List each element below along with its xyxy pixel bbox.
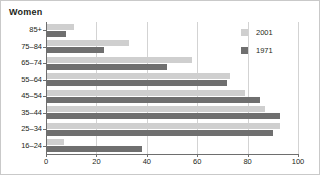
x-tick-mark — [248, 154, 249, 157]
bar-2001-16–24 — [46, 139, 64, 145]
bar-2001-65–74 — [46, 57, 192, 63]
x-tick-mark — [46, 154, 47, 157]
bar-2001-85+ — [46, 24, 74, 30]
bar-2001-45–54 — [46, 90, 245, 96]
y-axis-labels: 85+75–8465–7455–6445–5435–4425–3416–24 — [1, 22, 42, 154]
x-tick-label-100: 100 — [292, 157, 305, 166]
y-tick-label-25–34: 25–34 — [2, 125, 42, 133]
bar-group — [46, 138, 298, 155]
legend-swatch-icon — [241, 29, 248, 36]
x-tick-label-0: 0 — [44, 157, 48, 166]
y-tick-label-55–64: 55–64 — [2, 76, 42, 84]
y-tick-label-16–24: 16–24 — [2, 142, 42, 150]
y-tick-mark — [43, 47, 46, 48]
x-axis-line — [46, 154, 299, 155]
y-tick-mark — [43, 129, 46, 130]
bar-1971-85+ — [46, 31, 66, 37]
bar-2001-25–34 — [46, 123, 280, 129]
y-tick-mark — [43, 30, 46, 31]
x-tick-mark — [197, 154, 198, 157]
x-tick-label-40: 40 — [143, 157, 151, 166]
bar-2001-75–84 — [46, 40, 129, 46]
chart-legend: 20011971 — [241, 23, 313, 59]
x-tick-label-20: 20 — [92, 157, 100, 166]
bar-1971-16–24 — [46, 146, 142, 152]
legend-item-1971[interactable]: 1971 — [241, 41, 313, 59]
legend-label: 1971 — [256, 46, 273, 55]
y-tick-mark — [43, 113, 46, 114]
y-tick-mark — [43, 146, 46, 147]
y-tick-label-65–74: 65–74 — [2, 59, 42, 67]
x-tick-mark — [96, 154, 97, 157]
bar-group — [46, 105, 298, 122]
legend-item-2001[interactable]: 2001 — [241, 23, 313, 41]
y-tick-label-85+: 85+ — [2, 26, 42, 34]
x-tick-mark — [147, 154, 148, 157]
y-tick-label-35–44: 35–44 — [2, 109, 42, 117]
y-tick-mark — [43, 80, 46, 81]
bar-1971-25–34 — [46, 130, 273, 136]
x-tick-label-60: 60 — [193, 157, 201, 166]
y-axis-line — [46, 22, 47, 155]
x-tick-label-80: 80 — [243, 157, 251, 166]
bar-2001-55–64 — [46, 73, 230, 79]
legend-label: 2001 — [256, 28, 273, 37]
x-axis-labels: 020406080100 — [46, 157, 299, 171]
y-tick-label-45–54: 45–54 — [2, 92, 42, 100]
bar-1971-35–44 — [46, 113, 280, 119]
bar-1971-65–74 — [46, 64, 167, 70]
bar-1971-75–84 — [46, 47, 104, 53]
bar-2001-35–44 — [46, 106, 265, 112]
y-tick-mark — [43, 63, 46, 64]
bar-1971-45–54 — [46, 97, 260, 103]
chart-title: Women — [9, 7, 42, 17]
bar-1971-55–64 — [46, 80, 227, 86]
y-tick-label-75–84: 75–84 — [2, 43, 42, 51]
bar-group — [46, 88, 298, 105]
x-tick-mark — [298, 154, 299, 157]
bar-group — [46, 72, 298, 89]
bar-group — [46, 121, 298, 138]
y-tick-mark — [43, 96, 46, 97]
chart-container: Women 85+75–8465–7455–6445–5435–4425–341… — [0, 0, 320, 175]
legend-swatch-icon — [241, 47, 248, 54]
